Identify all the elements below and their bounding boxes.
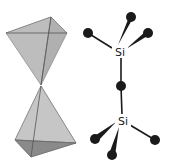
silicon-label-lower: Si [118, 115, 128, 128]
oxygen-atom-upper-right [143, 28, 153, 38]
lower-tetrahedron [15, 86, 76, 157]
oxygen-atom-bridge [116, 81, 126, 91]
silicon-label-upper: Si [115, 46, 125, 59]
oxygen-atom-lower-bottom [107, 150, 117, 160]
oxygen-atom-lower-left [90, 134, 100, 144]
lower-tetrahedron-back-face [15, 86, 76, 143]
ball-and-stick-model: Si Si [83, 12, 160, 160]
silicate-structure-diagram: Si Si [0, 0, 171, 166]
oxygen-atom-lower-right [150, 135, 160, 145]
oxygen-atom-upper-top [126, 12, 136, 22]
upper-tetrahedron [6, 17, 67, 85]
oxygen-atom-upper-left [83, 28, 93, 38]
